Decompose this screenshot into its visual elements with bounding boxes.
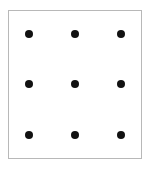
grid-dot-r1-c3 bbox=[117, 30, 125, 38]
grid-dot-r2-c2 bbox=[71, 80, 79, 88]
grid-dot-r2-c1 bbox=[25, 80, 33, 88]
grid-dot-r3-c2 bbox=[71, 131, 79, 139]
grid-dot-r3-c3 bbox=[117, 131, 125, 139]
grid-dot-r3-c1 bbox=[25, 131, 33, 139]
grid-dot-r1-c1 bbox=[25, 30, 33, 38]
grid-dot-r2-c3 bbox=[117, 80, 125, 88]
grid-dot-r1-c2 bbox=[71, 30, 79, 38]
